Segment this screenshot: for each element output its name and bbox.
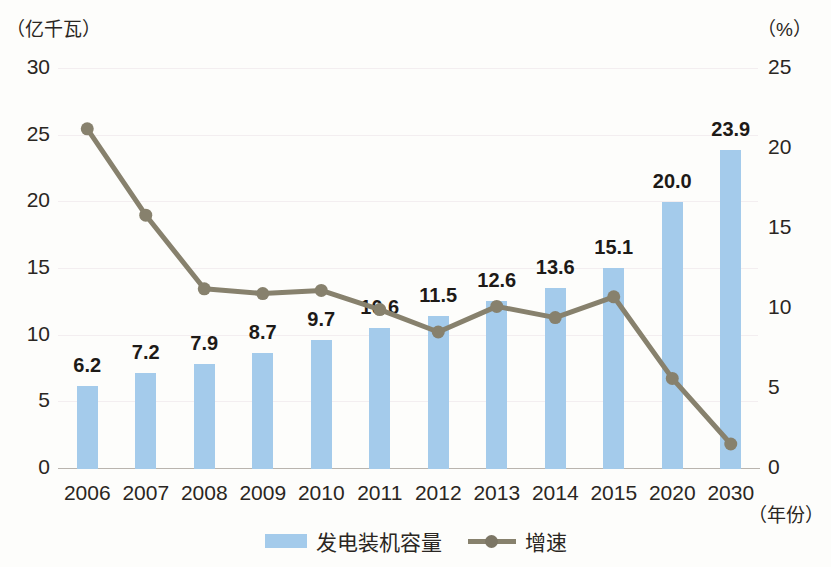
line-point bbox=[198, 282, 211, 295]
line-point bbox=[666, 372, 679, 385]
growth-rate-markers bbox=[81, 122, 738, 450]
line-point bbox=[81, 122, 94, 135]
line-point bbox=[139, 209, 152, 222]
line-marker-icon bbox=[468, 534, 516, 548]
line-point bbox=[490, 300, 503, 313]
line-point bbox=[315, 284, 328, 297]
line-point bbox=[724, 438, 737, 451]
line-point bbox=[256, 287, 269, 300]
growth-rate-line bbox=[87, 129, 731, 444]
line-series bbox=[0, 0, 831, 567]
legend-item-capacity: 发电装机容量 bbox=[265, 526, 442, 556]
line-point bbox=[549, 311, 562, 324]
line-point bbox=[432, 326, 445, 339]
chart-container: （亿千瓦） （%） （年份） 051015202530 0510152025 6… bbox=[0, 0, 831, 567]
bar-swatch-icon bbox=[265, 534, 307, 548]
line-point bbox=[607, 290, 620, 303]
legend-item-growth: 增速 bbox=[468, 526, 567, 556]
legend-label-capacity: 发电装机容量 bbox=[316, 526, 442, 556]
chart-legend: 发电装机容量 增速 bbox=[0, 526, 831, 556]
legend-label-growth: 增速 bbox=[525, 526, 567, 556]
line-point bbox=[373, 303, 386, 316]
